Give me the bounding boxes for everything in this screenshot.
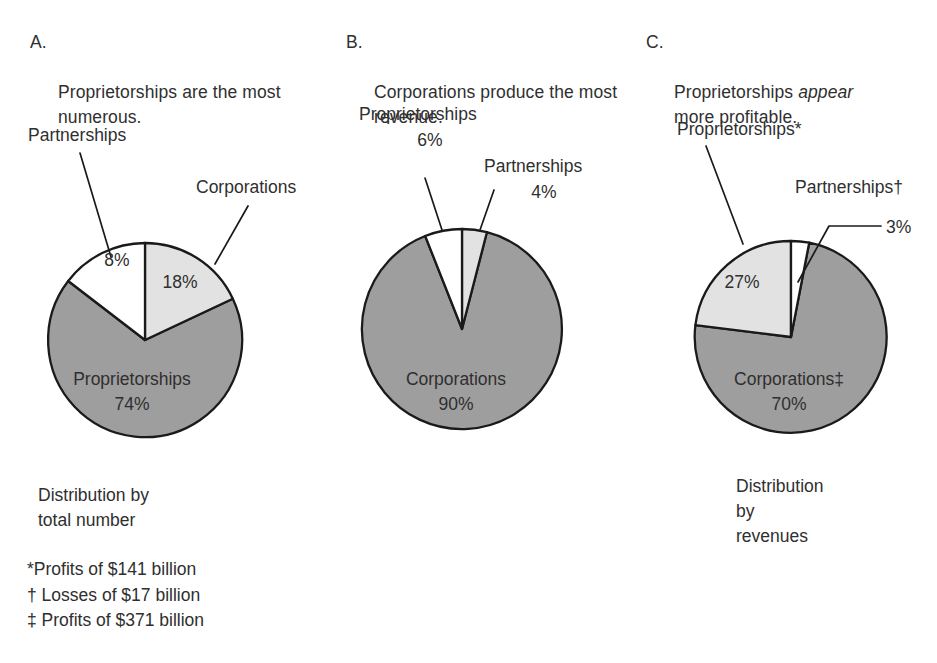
proprietorships-leader-c	[706, 146, 743, 244]
corporations-value-a: 18%	[162, 272, 197, 292]
corporations-value-b: 90%	[438, 394, 473, 414]
partnerships-callout-b: Partnerships	[484, 156, 582, 176]
panel-c-pie: Proprietorships* Partnerships† 3% 27% Co…	[630, 0, 937, 663]
footnote-dagger: † Losses of $17 billion	[27, 583, 204, 609]
partnerships-value-a: 8%	[104, 250, 129, 270]
panel-b: B. Corporations produce the most revenue…	[330, 0, 630, 663]
pie-chart-figure: A. Proprietorships are the most numerous…	[0, 0, 937, 663]
corporations-value-c: 70%	[771, 394, 806, 414]
corporations-callout-a: Corporations	[196, 177, 296, 197]
corporations-leader-a	[215, 206, 248, 264]
corporations-name-b: Corporations	[406, 369, 506, 389]
partnerships-leader-b	[480, 190, 494, 230]
partnerships-callout-c: Partnerships†	[795, 177, 903, 197]
corporations-name-c: Corporations‡	[734, 369, 844, 389]
partnerships-leader-a	[80, 153, 111, 257]
proprietorships-value-c: 27%	[724, 272, 759, 292]
panel-c: C. Proprietorships appearmore profitable…	[630, 0, 937, 663]
proprietorships-leader-b	[425, 178, 442, 230]
proprietorships-callout-c: Proprietorships*	[677, 119, 802, 139]
partnerships-value-c: 3%	[886, 217, 911, 237]
panel-a-caption: Distribution by total number	[38, 483, 149, 533]
panel-b-pie: Proprietorships 6% Partnerships 4% Corpo…	[330, 0, 630, 663]
proprietorships-name-a: Proprietorships	[73, 369, 191, 389]
footnote-double-dagger: ‡ Profits of $371 billion	[27, 608, 204, 634]
footnote-asterisk: *Profits of $141 billion	[27, 557, 204, 583]
footnotes: *Profits of $141 billion † Losses of $17…	[27, 557, 204, 634]
proprietorships-value-b: 6%	[417, 130, 442, 150]
partnerships-callout-a: Partnerships	[28, 125, 126, 145]
proprietorships-callout-b: Proprietorships	[359, 104, 477, 124]
proprietorships-value-a: 74%	[114, 394, 149, 414]
partnerships-value-b: 4%	[531, 182, 556, 202]
